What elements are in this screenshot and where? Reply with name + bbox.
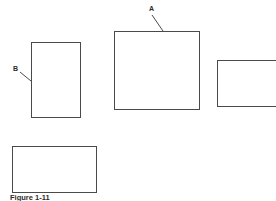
callout-label-b: B bbox=[13, 65, 18, 73]
callout-label-a: A bbox=[149, 5, 154, 13]
rectangle-right-clipped bbox=[217, 60, 276, 107]
figure-canvas: A B Figure 1-11 bbox=[0, 0, 276, 201]
rectangle-bottom bbox=[12, 146, 97, 193]
leader-line-a bbox=[152, 15, 163, 31]
figure-caption: Figure 1-11 bbox=[10, 194, 50, 201]
rectangle-a bbox=[114, 31, 200, 110]
leader-line-b bbox=[20, 72, 31, 81]
rectangle-b bbox=[31, 42, 81, 118]
